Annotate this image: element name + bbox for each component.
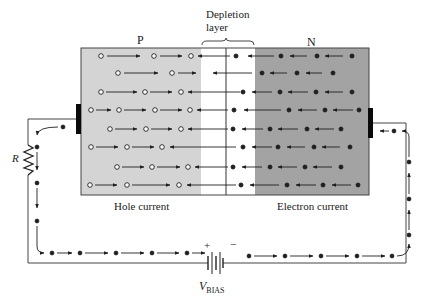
vbias-label: VBIAS	[199, 279, 225, 294]
hole-current-label: Hole current	[114, 200, 169, 212]
n-region-label: N	[307, 35, 316, 50]
electron-current-label: Electron current	[277, 200, 348, 212]
depletion-label-line2: layer	[206, 21, 228, 33]
battery-minus-label: −	[230, 238, 236, 250]
resistor-icon	[24, 145, 33, 175]
diagram-canvas	[0, 0, 431, 303]
pn-junction-diagram: P N Depletion layer Hole current Electro…	[0, 0, 431, 303]
battery-plus-label: +	[204, 239, 210, 251]
n-region	[255, 48, 369, 195]
depletion-region	[201, 48, 255, 195]
semiconductor-block	[81, 48, 369, 195]
right-electrode	[368, 108, 373, 138]
p-region	[81, 48, 201, 195]
left-electrode	[76, 104, 81, 134]
p-region-label: P	[137, 33, 144, 48]
depletion-label-line1: Depletion	[206, 8, 249, 20]
depletion-brace	[202, 38, 254, 45]
vbias-sub: BIAS	[206, 286, 224, 295]
resistor-label: R	[12, 152, 19, 164]
battery-icon	[208, 252, 223, 274]
